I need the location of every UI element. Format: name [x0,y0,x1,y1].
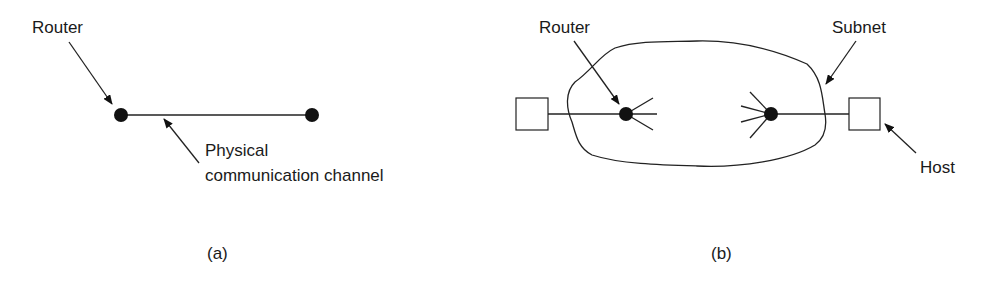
router-node-a-right [305,108,319,122]
router-arrow-a [69,42,112,104]
router-node-b-right [764,107,778,121]
router-arrow-b [574,41,619,104]
channel-label-line2: communication channel [205,166,384,185]
subnet-arrow [826,41,856,84]
subnet-cloud [567,41,825,166]
router-label-b: Router [539,18,590,37]
host-box-left [516,98,548,130]
router-node-b-left [619,107,633,121]
router-label-a: Router [32,18,83,37]
diagram-b: Router Subnet Host (b) [516,18,955,263]
channel-label-line1: Physical [205,141,268,160]
caption-b: (b) [711,244,732,263]
diagram-a: Router Physical communication channel (a… [32,18,384,263]
subnet-label: Subnet [832,18,886,37]
channel-arrow [164,119,199,163]
figure: Router Physical communication channel (a… [0,0,993,281]
router-node-a-left [114,108,128,122]
host-box-right [849,98,880,130]
caption-a: (a) [207,244,228,263]
host-arrow [885,124,916,153]
host-label: Host [920,158,955,177]
